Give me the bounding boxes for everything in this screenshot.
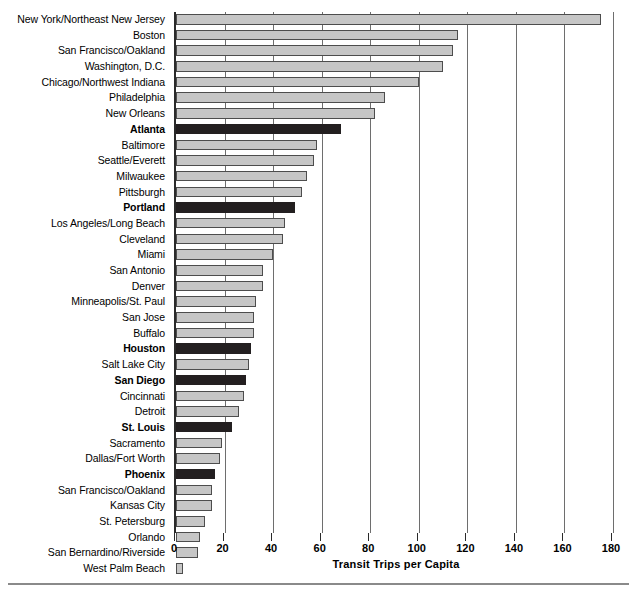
category-label: Philadelphia <box>0 90 170 106</box>
bar-row <box>176 341 618 357</box>
category-label: West Palm Beach <box>0 561 170 577</box>
bar-row <box>176 28 618 44</box>
category-label: Sacramento <box>0 436 170 452</box>
bar <box>176 406 239 417</box>
category-label-column: New York/Northeast New JerseyBostonSan F… <box>0 12 170 577</box>
bar-row <box>176 294 618 310</box>
bar-row <box>176 106 618 122</box>
category-label: St. Petersburg <box>0 514 170 530</box>
bar <box>176 77 419 88</box>
bar <box>176 14 601 25</box>
category-label: Buffalo <box>0 326 170 342</box>
transit-trips-per-capita-bar-chart: New York/Northeast New JerseyBostonSan F… <box>0 0 637 592</box>
bar-row <box>176 59 618 75</box>
bar-row <box>176 326 618 342</box>
category-label: New York/Northeast New Jersey <box>0 12 170 28</box>
category-label: Orlando <box>0 530 170 546</box>
bar <box>176 202 295 213</box>
x-axis-tick-label: 140 <box>505 542 523 554</box>
category-label: New Orleans <box>0 106 170 122</box>
x-axis-tick <box>465 533 466 541</box>
x-axis-title: Transit Trips per Capita <box>174 558 618 570</box>
bar-row <box>176 467 618 483</box>
bar-row <box>176 153 618 169</box>
category-label: Kansas City <box>0 498 170 514</box>
bar <box>176 500 212 511</box>
x-axis-tick-label: 20 <box>216 542 228 554</box>
bar <box>176 391 244 402</box>
bar-row <box>176 404 618 420</box>
bar <box>176 171 307 182</box>
category-label: Portland <box>0 200 170 216</box>
category-label: San Francisco/Oakland <box>0 43 170 59</box>
category-label: Miami <box>0 247 170 263</box>
bar-row <box>176 185 618 201</box>
category-label: San Bernardino/Riverside <box>0 545 170 561</box>
x-axis-tick <box>271 533 272 541</box>
x-axis-tick-label: 180 <box>602 542 620 554</box>
x-axis-tick <box>417 533 418 541</box>
x-axis-tick-label: 40 <box>265 542 277 554</box>
bar-row <box>176 373 618 389</box>
category-label: San Antonio <box>0 263 170 279</box>
bar-row <box>176 310 618 326</box>
x-axis-tick <box>223 533 224 541</box>
bar <box>176 343 251 354</box>
bar-row <box>176 12 618 28</box>
bar <box>176 234 283 245</box>
category-label: Cincinnati <box>0 389 170 405</box>
category-label: San Jose <box>0 310 170 326</box>
bar-row <box>176 200 618 216</box>
category-label: Boston <box>0 28 170 44</box>
bar <box>176 281 263 292</box>
category-label: Denver <box>0 279 170 295</box>
category-label: Cleveland <box>0 232 170 248</box>
bar-row <box>176 43 618 59</box>
bar <box>176 140 317 151</box>
category-label: Pittsburgh <box>0 185 170 201</box>
bar-row <box>176 122 618 138</box>
x-axis-tick <box>320 533 321 541</box>
x-axis-tick-label: 60 <box>314 542 326 554</box>
category-label: Phoenix <box>0 467 170 483</box>
category-label: Chicago/Northwest Indiana <box>0 75 170 91</box>
bar <box>176 328 254 339</box>
bar <box>176 218 285 229</box>
x-axis-tick-label: 0 <box>171 542 177 554</box>
bar <box>176 516 205 527</box>
bar-row <box>176 263 618 279</box>
bar <box>176 359 249 370</box>
bar-row <box>176 357 618 373</box>
bar-row <box>176 232 618 248</box>
footer-divider <box>8 583 629 585</box>
bar <box>176 469 215 480</box>
bar-row <box>176 75 618 91</box>
category-label: San Diego <box>0 373 170 389</box>
bar <box>176 485 212 496</box>
bar-row <box>176 451 618 467</box>
bar-row <box>176 216 618 232</box>
x-axis-tick-label: 80 <box>362 542 374 554</box>
category-label: Minneapolis/St. Paul <box>0 294 170 310</box>
bar <box>176 108 375 119</box>
category-label: Seattle/Everett <box>0 153 170 169</box>
x-axis-tick <box>562 533 563 541</box>
bar <box>176 30 458 41</box>
bar <box>176 61 443 72</box>
x-axis-tick <box>514 533 515 541</box>
category-label: Detroit <box>0 404 170 420</box>
bar <box>176 453 220 464</box>
bar <box>176 92 385 103</box>
category-label: Milwaukee <box>0 169 170 185</box>
category-label: Salt Lake City <box>0 357 170 373</box>
bar <box>176 124 341 135</box>
bar-row <box>176 169 618 185</box>
bar-row <box>176 90 618 106</box>
plot-area <box>174 12 618 533</box>
bar <box>176 312 254 323</box>
x-axis-tick-label: 100 <box>408 542 426 554</box>
category-label: San Francisco/Oakland <box>0 483 170 499</box>
bar <box>176 422 232 433</box>
bar-series <box>176 12 618 533</box>
category-label: Houston <box>0 341 170 357</box>
